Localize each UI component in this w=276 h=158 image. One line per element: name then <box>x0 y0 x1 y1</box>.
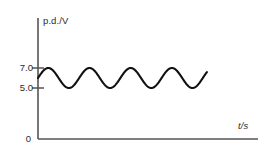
y-tick-label-5: 5.0 <box>7 82 33 93</box>
x-axis-label: t/s <box>238 120 248 131</box>
y-axis-label: p.d./V <box>43 15 68 26</box>
plot-area <box>0 0 276 158</box>
chart-container: p.d./V t/s 7.0 5.0 0 <box>0 0 276 158</box>
y-tick-label-7: 7.0 <box>7 62 33 73</box>
origin-label: 0 <box>3 133 31 144</box>
waveform-curve <box>38 68 207 88</box>
